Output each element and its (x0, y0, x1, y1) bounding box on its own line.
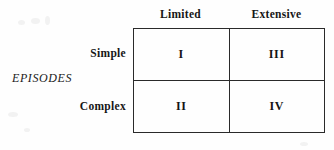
matrix-cell-complex-extensive: IV (229, 81, 324, 133)
cell-value: I (134, 47, 229, 62)
row-label-complex: Complex (46, 100, 126, 113)
column-header-limited: Limited (133, 8, 228, 21)
cell-value: II (134, 99, 229, 114)
scan-speckle (31, 18, 40, 24)
matrix-cell-complex-limited: II (134, 81, 229, 133)
scan-speckle (8, 112, 18, 117)
matrix-figure: Limited Extensive Simple Complex EPISODE… (0, 0, 334, 150)
matrix-row-complex: II IV (134, 81, 324, 133)
scan-speckle (45, 16, 50, 25)
cell-value: III (230, 47, 325, 62)
scan-speckle (24, 128, 30, 132)
matrix-cell-simple-limited: I (134, 29, 229, 81)
row-label-simple: Simple (46, 47, 126, 60)
column-header-extensive: Extensive (228, 8, 325, 21)
matrix-table: I III II IV (134, 29, 324, 132)
cell-value: IV (230, 99, 325, 114)
matrix-row-simple: I III (134, 29, 324, 81)
scan-speckle (18, 20, 25, 25)
quadrant-matrix: I III II IV (133, 28, 325, 133)
scan-speckle (300, 142, 308, 146)
axis-label-episodes: EPISODES (12, 71, 72, 85)
matrix-cell-simple-extensive: III (229, 29, 324, 81)
